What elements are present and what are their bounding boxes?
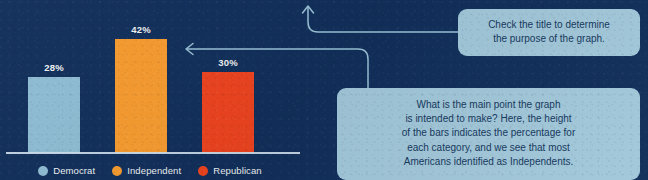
- bar-value-independent: 42%: [115, 24, 167, 35]
- bar-rect-democrat: [28, 77, 80, 153]
- legend-label-independent: Independent: [127, 165, 181, 176]
- callout-main-line-3: of the bars indicates the percentage for: [345, 126, 632, 140]
- legend-label-republican: Republican: [213, 165, 262, 176]
- legend-swatch-democrat: [38, 166, 48, 176]
- legend-item-republican[interactable]: Republican: [198, 165, 262, 176]
- callout-main-line-2: is intended to make? Here, the height: [345, 112, 632, 126]
- bar-rect-republican: [202, 72, 254, 153]
- bar-independent[interactable]: 42%: [115, 39, 167, 153]
- bar-republican[interactable]: 30%: [202, 72, 254, 153]
- callout-main-point[interactable]: What is the main point the graph is inte…: [337, 88, 640, 180]
- callout-title-line-1: Check the title to determine: [466, 18, 632, 32]
- legend-swatch-independent: [112, 166, 122, 176]
- callout-main-line-4: each category, and we see that most: [345, 141, 632, 155]
- callout-main-line-1: What is the main point the graph: [345, 98, 632, 112]
- legend-swatch-republican: [198, 166, 208, 176]
- chart-legend: Democrat Independent Republican: [0, 165, 300, 176]
- bar-value-democrat: 28%: [28, 62, 80, 73]
- connector-path-to-title: [308, 7, 458, 32]
- bar-value-republican: 30%: [202, 57, 254, 68]
- bar-democrat[interactable]: 28%: [28, 77, 80, 153]
- bar-rect-independent: [115, 39, 167, 153]
- callout-title-line-2: the purpose of the graph.: [466, 32, 632, 46]
- callout-check-title[interactable]: Check the title to determine the purpose…: [458, 9, 640, 56]
- legend-item-independent[interactable]: Independent: [112, 165, 181, 176]
- callout-main-line-5: Americans identified as Independents.: [345, 155, 632, 169]
- legend-label-democrat: Democrat: [53, 165, 95, 176]
- legend-item-democrat[interactable]: Democrat: [38, 165, 95, 176]
- bar-chart: 28% 42% 30% Democrat Independent Republi…: [0, 0, 320, 180]
- axis-baseline: [6, 152, 300, 154]
